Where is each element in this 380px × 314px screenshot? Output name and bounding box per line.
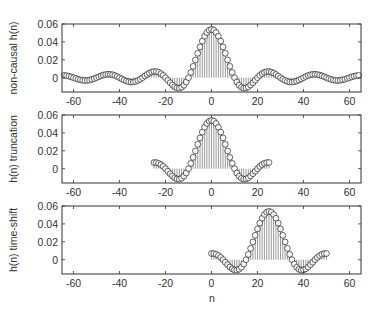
x-tick-label: -60	[66, 186, 81, 198]
y-tick-label: 0.02	[38, 145, 59, 157]
x-tick-label: 60	[344, 95, 356, 107]
x-tick-label: -20	[158, 186, 173, 198]
x-tick-label: -60	[66, 95, 81, 107]
x-tick-label: 40	[298, 186, 310, 198]
stem-plot-figure: -60-40-20020406000.020.040.06non-causal …	[0, 0, 380, 314]
x-tick-label: -60	[66, 277, 81, 289]
x-tick-label: -20	[158, 277, 173, 289]
x-tick-label: 20	[252, 186, 264, 198]
x-tick-label: 20	[252, 277, 264, 289]
y-tick-label: 0.02	[38, 236, 59, 248]
y-tick-label: 0.04	[38, 127, 59, 139]
y-tick-label: 0.04	[38, 36, 59, 48]
x-tick-label: 0	[209, 95, 215, 107]
x-tick-label: 60	[344, 277, 356, 289]
subplot-1: -60-40-20020406000.020.040.06non-causal …	[7, 18, 362, 107]
y-tick-label: 0	[52, 254, 58, 266]
axes-box	[62, 206, 361, 274]
y-tick-label: 0.06	[38, 200, 59, 212]
x-tick-label: 20	[252, 95, 264, 107]
x-tick-label: 0	[209, 186, 215, 198]
y-tick-label: 0.02	[38, 54, 59, 66]
y-axis-label: h(n) truncation	[7, 115, 19, 183]
y-tick-label: 0.04	[38, 218, 59, 230]
x-tick-label: -40	[112, 277, 127, 289]
x-tick-label: -40	[112, 95, 127, 107]
x-tick-label: 40	[298, 95, 310, 107]
x-tick-label: 40	[298, 277, 310, 289]
y-tick-label: 0	[52, 72, 58, 84]
subplot-3: -60-40-20020406000.020.040.06h(n) time-s…	[7, 200, 361, 289]
y-tick-label: 0	[52, 163, 58, 175]
x-tick-label: 0	[209, 277, 215, 289]
y-axis-label: non-causal h(n)	[7, 22, 19, 95]
y-tick-label: 0.06	[38, 18, 59, 30]
y-tick-label: 0.06	[38, 109, 59, 121]
x-tick-label: 60	[344, 186, 356, 198]
x-tick-label: -40	[112, 186, 127, 198]
y-axis-label: h(n) time-shift	[7, 208, 19, 272]
x-tick-label: -20	[158, 95, 173, 107]
x-axis-label: n	[209, 292, 215, 304]
subplot-2: -60-40-20020406000.020.040.06h(n) trunca…	[7, 109, 361, 198]
